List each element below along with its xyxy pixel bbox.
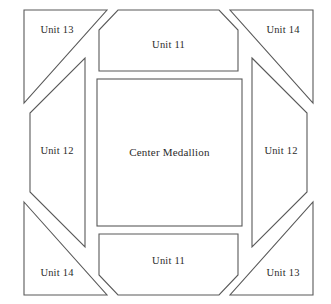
piece-label-center-medallion: Center Medallion	[129, 146, 210, 158]
piece-label-side-bottom: Unit 11	[152, 255, 185, 266]
piece-label-corner-top-left: Unit 13	[40, 24, 73, 35]
piece-label-side-right: Unit 12	[264, 145, 297, 156]
piece-label-side-top: Unit 11	[152, 39, 185, 50]
piece-label-corner-top-right: Unit 14	[266, 24, 300, 35]
quilt-block-canvas: Unit 13 Unit 11 Unit 14 Unit 12 Unit 12 …	[0, 0, 331, 304]
quilt-block-diagram: Unit 13 Unit 11 Unit 14 Unit 12 Unit 12 …	[0, 0, 331, 304]
piece-label-side-left: Unit 12	[40, 145, 73, 156]
piece-label-corner-bottom-right: Unit 13	[266, 267, 299, 278]
piece-label-corner-bottom-left: Unit 14	[40, 267, 74, 278]
